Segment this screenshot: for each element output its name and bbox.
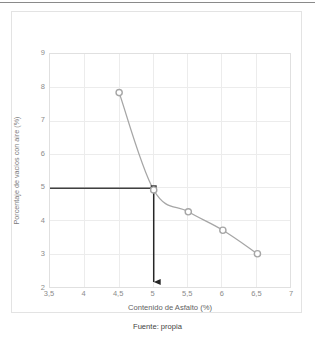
page-top-divider [0, 2, 315, 3]
x-tick-label: 5,5 [182, 290, 192, 298]
x-tick-label: 5 [151, 290, 155, 298]
x-tick-label: 4 [81, 290, 85, 298]
chart-figure-card: 9 8 7 6 5 4 3 2 Porcentaje de vacíos con… [11, 11, 302, 313]
series-line [119, 93, 257, 254]
figure-caption: Fuente: propia [0, 322, 315, 332]
x-tick-label: 6,5 [251, 290, 261, 298]
data-point-markers [116, 90, 260, 257]
data-point-marker [220, 227, 226, 233]
plot-area [49, 53, 291, 288]
figure-page: 9 8 7 6 5 4 3 2 Porcentaje de vacíos con… [0, 0, 315, 343]
data-point-marker [254, 251, 260, 257]
data-point-marker [116, 90, 122, 96]
x-tick-label: 4,5 [113, 290, 123, 298]
series-layer [50, 54, 292, 289]
x-tick-label: 7 [289, 290, 293, 298]
x-tick-label: 6 [220, 290, 224, 298]
line-chart: 9 8 7 6 5 4 3 2 Porcentaje de vacíos con… [12, 12, 303, 314]
y-axis-title: Porcentaje de vacíos con aire (%) [11, 53, 23, 288]
x-tick-label: 3,5 [44, 290, 54, 298]
annotation-layer [50, 185, 157, 282]
data-point-marker [151, 187, 157, 193]
data-series-line [119, 93, 257, 254]
x-axis-ticks: 3,5 4 4,5 5 5,5 6 6,5 7 [49, 290, 291, 304]
x-axis-title: Contenido de Asfalto (%) [49, 303, 291, 313]
data-point-marker [185, 209, 191, 215]
